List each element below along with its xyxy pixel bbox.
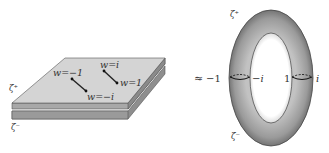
label-w-i: w=i <box>100 59 119 70</box>
label-sheet-upper: ζ⁺ <box>9 83 18 93</box>
two-sheet-plane <box>12 58 165 119</box>
label-w-minus-i: w=−i <box>87 91 114 102</box>
riemann-surface-diagram: w=−1 w=−i w=i w=1 ζ⁺ ζ⁻ ≈ −1 −i 1 i ζ⁺ ζ… <box>0 0 329 153</box>
label-left-cut-outer: −1 <box>206 73 221 84</box>
label-right-cut-outer: i <box>316 73 319 84</box>
label-w-1: w=1 <box>120 77 142 88</box>
label-w-minus-1: w=−1 <box>53 67 83 78</box>
label-torus-top: ζ⁺ <box>230 9 239 19</box>
approx-symbol: ≈ <box>194 72 203 85</box>
label-right-cut-inner: 1 <box>284 73 290 84</box>
label-sheet-lower: ζ⁻ <box>11 122 20 132</box>
torus <box>229 10 313 146</box>
label-torus-bottom: ζ⁻ <box>231 131 240 141</box>
label-left-cut-inner: −i <box>252 73 264 84</box>
